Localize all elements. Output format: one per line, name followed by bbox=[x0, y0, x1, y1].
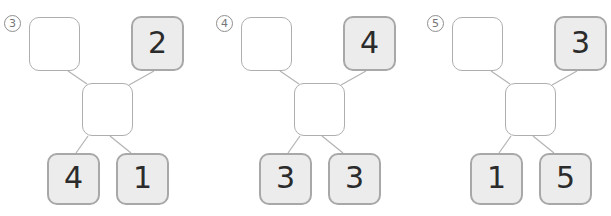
value-box-bottom-left: 1 bbox=[470, 153, 523, 205]
value-number: 1 bbox=[487, 163, 506, 193]
value-number: 1 bbox=[133, 163, 152, 193]
answer-box-middle[interactable] bbox=[82, 83, 133, 136]
value-box-top-right: 3 bbox=[554, 16, 607, 71]
answer-box-top-left[interactable] bbox=[29, 17, 80, 71]
value-number: 5 bbox=[556, 163, 575, 193]
answer-box-middle[interactable] bbox=[505, 83, 556, 136]
value-number: 3 bbox=[571, 28, 590, 58]
value-box-bottom-left: 4 bbox=[47, 153, 100, 205]
value-box-bottom-right: 5 bbox=[539, 153, 592, 205]
question-number: 5 bbox=[432, 18, 439, 29]
value-box-top-right: 2 bbox=[131, 16, 184, 71]
question-number-badge: 4 bbox=[216, 15, 233, 32]
question-number: 3 bbox=[9, 18, 16, 29]
question-number-badge: 3 bbox=[4, 15, 21, 32]
number-bond-diagram-4: 4 4 3 3 bbox=[212, 0, 404, 216]
value-box-top-right: 4 bbox=[343, 16, 396, 71]
question-number: 4 bbox=[221, 18, 228, 29]
value-box-bottom-right: 1 bbox=[116, 153, 169, 205]
number-bond-diagram-3: 3 2 4 1 bbox=[0, 0, 192, 216]
answer-box-top-left[interactable] bbox=[452, 17, 503, 71]
number-bond-diagram-5: 5 3 1 5 bbox=[423, 0, 611, 216]
value-box-bottom-left: 3 bbox=[259, 153, 312, 205]
value-number: 3 bbox=[276, 163, 295, 193]
answer-box-middle[interactable] bbox=[294, 83, 345, 136]
value-number: 3 bbox=[345, 163, 364, 193]
value-number: 4 bbox=[360, 28, 379, 58]
value-number: 2 bbox=[148, 28, 167, 58]
question-number-badge: 5 bbox=[427, 15, 444, 32]
value-number: 4 bbox=[64, 163, 83, 193]
value-box-bottom-right: 3 bbox=[328, 153, 381, 205]
answer-box-top-left[interactable] bbox=[241, 17, 292, 71]
